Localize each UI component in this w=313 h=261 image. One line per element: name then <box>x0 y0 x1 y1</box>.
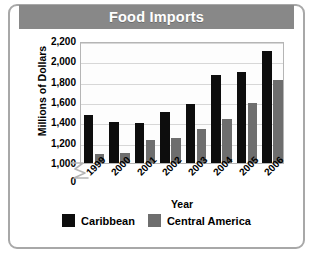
y-axis-tick-label: 1,600 <box>34 98 76 108</box>
bar <box>135 123 145 163</box>
chart-title: Food Imports <box>109 9 204 25</box>
bar <box>84 115 94 163</box>
y-axis-tick-label: 1,200 <box>34 139 76 149</box>
chart-body: Millions of Dollars 2,2002,0001,8001,600… <box>12 30 301 245</box>
plot-area <box>80 42 284 164</box>
bar <box>211 75 221 163</box>
bars-layer <box>81 43 283 163</box>
y-axis-tick-label: 2,000 <box>34 57 76 67</box>
bar <box>160 112 170 163</box>
y-axis-tick-label: 1,800 <box>34 78 76 88</box>
legend-item: Caribbean <box>62 214 135 227</box>
chart-title-band: Food Imports <box>19 5 294 29</box>
bar <box>262 51 272 163</box>
bar <box>237 72 247 164</box>
legend-label: Caribbean <box>81 215 135 227</box>
y-axis-tick-label: 2,200 <box>34 37 76 47</box>
legend-label: Central America <box>167 215 251 227</box>
legend-swatch <box>62 214 75 227</box>
bar <box>273 80 283 163</box>
y-axis-tick-label: 1,400 <box>34 118 76 128</box>
legend-item: Central America <box>148 214 251 227</box>
chart-figure: Food Imports Millions of Dollars 2,2002,… <box>0 0 313 261</box>
x-axis-title: Year <box>80 198 284 210</box>
bar <box>109 122 119 163</box>
bar <box>186 104 196 163</box>
y-axis-tick-labels: 2,2002,0001,8001,6001,4001,2001,0000 <box>34 38 76 173</box>
legend-swatch <box>148 214 161 227</box>
chart-legend: CaribbeanCentral America <box>12 214 301 227</box>
